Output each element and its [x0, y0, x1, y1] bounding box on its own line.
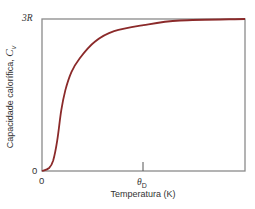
x-tick-0: 0: [39, 175, 44, 186]
x-axis-label: Temperatura (K): [110, 189, 175, 199]
y-tick-0: 0: [32, 165, 37, 176]
y-axis-subscript: v: [10, 46, 17, 50]
heat-capacity-curve: [42, 19, 245, 171]
y-tick-3r: 3R: [22, 13, 33, 23]
y-axis-label: Capacidade calorífica, Cv: [3, 46, 17, 148]
theta-subscript: D: [142, 182, 147, 189]
x-tick-theta-d: θD: [137, 176, 147, 189]
plot-frame: [42, 19, 245, 171]
y-axis-symbol: C: [3, 49, 15, 56]
y-axis-label-text: Capacidade calorífica,: [5, 57, 15, 149]
